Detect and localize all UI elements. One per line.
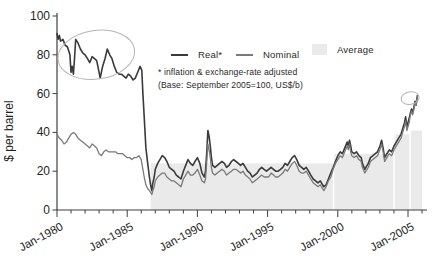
y-tick-label: 0 (43, 203, 50, 217)
y-tick-label: 20 (37, 164, 51, 178)
legend-average-label: Average (337, 44, 374, 55)
average-area-swatch (312, 44, 327, 55)
legend-item-average: Average (312, 44, 374, 55)
chart-canvas: Jan-1980Jan-1985Jan-1990Jan-1995Jan-2000… (0, 0, 434, 264)
nominal-line-swatch (236, 54, 253, 56)
footnote: * inflation & exchange-rate adjusted (Ba… (158, 66, 303, 92)
x-tick-label: Jan-1995 (228, 220, 276, 253)
legend-real-label: Real* (198, 49, 222, 60)
y-tick-label: 40 (37, 125, 51, 139)
real-line-swatch (171, 54, 188, 56)
x-tick-label: Jan-1990 (157, 220, 205, 253)
y-tick-label: 80 (37, 48, 51, 62)
x-tick-label: Jan-2005 (368, 220, 416, 253)
y-tick-label: 100 (30, 9, 50, 23)
footnote-line-1: * inflation & exchange-rate adjusted (158, 66, 303, 79)
average-segment (411, 131, 422, 211)
highlight-ellipse (55, 25, 138, 84)
x-tick-label: Jan-2000 (298, 220, 346, 253)
legend-item-real: Real* (171, 49, 222, 60)
legend-item-nominal: Nominal (236, 49, 299, 60)
average-segment (151, 163, 333, 210)
legend-nominal-label: Nominal (263, 49, 299, 60)
y-tick-label: 60 (37, 87, 51, 101)
y-axis-title: $ per barrel (2, 100, 16, 161)
x-tick-label: Jan-1980 (17, 220, 65, 253)
oil-price-chart-figure: Jan-1980Jan-1985Jan-1990Jan-1995Jan-2000… (0, 0, 434, 264)
average-segment (334, 154, 393, 210)
x-tick-label: Jan-1985 (87, 220, 135, 253)
footnote-line-2: (Base: September 2005=100, US$/b) (158, 79, 303, 92)
